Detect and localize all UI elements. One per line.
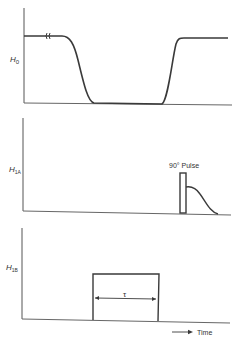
- panel-h1a: 90° Pulse H1A: [9, 118, 231, 215]
- time-arrow-icon: [188, 330, 193, 334]
- fid-decay-curve: [186, 187, 218, 214]
- h0-field-curve: [24, 36, 228, 104]
- pulse-label: 90° Pulse: [169, 162, 199, 169]
- tau-arrow-left-icon: [95, 296, 99, 300]
- time-indicator: Time: [172, 329, 212, 336]
- tau-label: τ: [123, 290, 127, 299]
- pulse-rect: [180, 173, 186, 213]
- h0-label: H0: [10, 55, 20, 65]
- h1b-label: H1B: [6, 263, 19, 273]
- h1a-label: H1A: [9, 165, 22, 175]
- panel-h1b: τ H1B: [6, 228, 230, 323]
- tau-arrow-right-icon: [152, 297, 156, 301]
- panel-h0: H0: [10, 8, 232, 105]
- h1a-x-axis: [23, 211, 231, 215]
- time-label: Time: [197, 329, 212, 336]
- timing-diagram: H0 90° Pulse H1A τ H1B Time: [0, 0, 238, 340]
- h1b-x-axis: [22, 319, 230, 323]
